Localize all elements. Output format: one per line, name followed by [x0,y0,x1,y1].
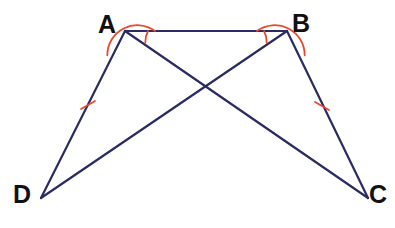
geometry-canvas [0,0,395,228]
vertex-label-C: C [369,182,387,207]
tick-marks-group [81,101,329,110]
geometry-figure: A B C D [0,0,395,228]
segment-BC [287,31,368,198]
segment-AC [125,31,368,198]
segments-group [41,31,368,198]
angle-arc-DBA [264,31,267,43]
segment-AD [41,31,125,198]
segment-BD [41,31,287,198]
vertex-label-B: B [292,11,310,36]
angle-arc-CAB [145,31,148,43]
vertex-label-D: D [13,182,31,207]
vertex-label-A: A [98,12,116,37]
